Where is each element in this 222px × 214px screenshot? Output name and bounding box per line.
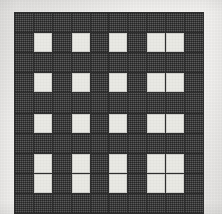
grid-cell-r9-c7: [128, 174, 146, 193]
grid-cell-r3-c7: [128, 53, 146, 72]
grid-cell-r7-c1: [15, 134, 33, 153]
grid-cell-r8-c8: [147, 154, 165, 173]
grid-cell-r6-c6: [109, 114, 127, 133]
grid-cell-r4-c5: [91, 73, 109, 92]
grid-cell-r8-c5: [91, 154, 109, 173]
grid-cell-r7-c2: [34, 134, 52, 153]
grid-cell-r7-c9: [166, 134, 184, 153]
grid-cell-r2-c9: [166, 33, 184, 52]
grid-cell-r6-c3: [53, 114, 71, 133]
grid-cell-r6-c2: [34, 114, 52, 133]
grid-cell-r1-c3: [53, 13, 71, 32]
grid-cell-r7-c7: [128, 134, 146, 153]
grid-cell-r2-c7: [128, 33, 146, 52]
grid-cell-r2-c6: [109, 33, 127, 52]
grid-cell-r7-c8: [147, 134, 165, 153]
grid-cell-r5-c2: [34, 93, 52, 112]
grid-cell-r4-c3: [53, 73, 71, 92]
grid-cell-r1-c8: [147, 13, 165, 32]
grid-cell-r6-c1: [15, 114, 33, 133]
grid-cell-r5-c8: [147, 93, 165, 112]
grid-figure: [14, 12, 204, 214]
grid-cell-r4-c4: [72, 73, 90, 92]
grid-cell-r3-c2: [34, 53, 52, 72]
grid-cell-r9-c6: [109, 174, 127, 193]
grid-cell-r3-c1: [15, 53, 33, 72]
grid-cell-r5-c7: [128, 93, 146, 112]
grid-cell-r10-c4: [72, 194, 90, 213]
grid-cell-r9-c1: [15, 174, 33, 193]
grid-cell-r4-c9: [166, 73, 184, 92]
grid-cell-r7-c6: [109, 134, 127, 153]
grid-cell-r5-c5: [91, 93, 109, 112]
grid-cell-r7-c3: [53, 134, 71, 153]
grid-cell-r4-c1: [15, 73, 33, 92]
grid-cell-r2-c2: [34, 33, 52, 52]
grid-cell-r6-c5: [91, 114, 109, 133]
grid-cell-r2-c4: [72, 33, 90, 52]
grid-cell-r6-c10: [185, 114, 203, 133]
grid-cell-r4-c10: [185, 73, 203, 92]
grid-cell-r1-c2: [34, 13, 52, 32]
grid-cell-r3-c3: [53, 53, 71, 72]
grid-cell-r3-c9: [166, 53, 184, 72]
grid-cell-r5-c4: [72, 93, 90, 112]
grid-cell-r10-c1: [15, 194, 33, 213]
grid-cell-r9-c2: [34, 174, 52, 193]
grid-cell-r9-c3: [53, 174, 71, 193]
grid-cell-r1-c7: [128, 13, 146, 32]
grid-cell-r8-c3: [53, 154, 71, 173]
grid-cell-r8-c7: [128, 154, 146, 173]
grid-cell-r6-c9: [166, 114, 184, 133]
grid-cell-r9-c4: [72, 174, 90, 193]
grid-cell-r1-c10: [185, 13, 203, 32]
grid-cell-r4-c6: [109, 73, 127, 92]
grid-cell-r1-c9: [166, 13, 184, 32]
grid-cell-r8-c9: [166, 154, 184, 173]
grid-cell-r2-c3: [53, 33, 71, 52]
grid-cell-r1-c5: [91, 13, 109, 32]
grid-cell-r10-c9: [166, 194, 184, 213]
grid-cell-r3-c10: [185, 53, 203, 72]
grid-cell-r7-c4: [72, 134, 90, 153]
grid-cell-r9-c8: [147, 174, 165, 193]
grid-cell-r4-c7: [128, 73, 146, 92]
grid-cell-r1-c4: [72, 13, 90, 32]
grid-cell-r10-c8: [147, 194, 165, 213]
grid-cell-r7-c10: [185, 134, 203, 153]
grid-cell-r10-c7: [128, 194, 146, 213]
grid-cell-r1-c1: [15, 13, 33, 32]
grid-cell-r7-c5: [91, 134, 109, 153]
grid-cell-r2-c10: [185, 33, 203, 52]
page-canvas: [0, 0, 222, 214]
grid-cell-r5-c9: [166, 93, 184, 112]
grid-cell-r3-c5: [91, 53, 109, 72]
grid-cell-r10-c6: [109, 194, 127, 213]
grid-cell-r5-c1: [15, 93, 33, 112]
grid-cell-r6-c7: [128, 114, 146, 133]
grid-cell-r2-c8: [147, 33, 165, 52]
grid-cell-r3-c4: [72, 53, 90, 72]
grid-cell-r8-c1: [15, 154, 33, 173]
grid-cell-r3-c6: [109, 53, 127, 72]
grid-cell-r5-c6: [109, 93, 127, 112]
grid-cell-r9-c9: [166, 174, 184, 193]
grid-cell-r2-c5: [91, 33, 109, 52]
grid-cell-r8-c6: [109, 154, 127, 173]
grid-cell-r4-c8: [147, 73, 165, 92]
grid-cell-r4-c2: [34, 73, 52, 92]
grid-cell-r10-c5: [91, 194, 109, 213]
grid-cell-r9-c5: [91, 174, 109, 193]
grid-cell-r9-c10: [185, 174, 203, 193]
grid-cell-r6-c4: [72, 114, 90, 133]
grid-cell-r8-c4: [72, 154, 90, 173]
grid-cell-r8-c2: [34, 154, 52, 173]
grid-cell-r2-c1: [15, 33, 33, 52]
grid-cell-r8-c10: [185, 154, 203, 173]
grid-cell-r5-c10: [185, 93, 203, 112]
grid-cell-r3-c8: [147, 53, 165, 72]
grid-cell-r10-c10: [185, 194, 203, 213]
grid-cell-r10-c2: [34, 194, 52, 213]
grid-cell-r1-c6: [109, 13, 127, 32]
grid-cell-r10-c3: [53, 194, 71, 213]
